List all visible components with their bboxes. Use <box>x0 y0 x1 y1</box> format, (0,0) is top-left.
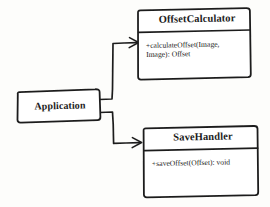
uml-class-diagram: Application OffsetCalculator +calculateO… <box>0 0 270 207</box>
connector-app-to-savehandler[interactable] <box>100 112 142 148</box>
connector-app-to-offsetcalculator[interactable] <box>100 38 139 100</box>
class-box-application[interactable] <box>18 89 101 122</box>
diagram-canvas <box>0 0 270 207</box>
class-box-savehandler[interactable] <box>144 126 259 197</box>
class-box-offsetcalculator[interactable] <box>138 8 251 79</box>
